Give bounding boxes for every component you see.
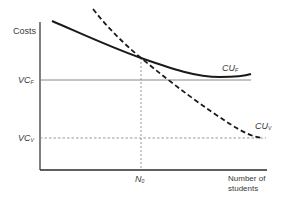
x-axis-label-line2: students bbox=[228, 184, 265, 194]
diagram-canvas bbox=[0, 0, 283, 202]
vc-variable-label: VCV bbox=[18, 133, 34, 145]
cu-variable-label: CUV bbox=[255, 121, 271, 133]
y-axis-label: Costs bbox=[13, 26, 36, 36]
vc-fixed-label: VCF bbox=[18, 75, 34, 87]
cu-fixed-label: CUF bbox=[222, 63, 238, 75]
x-axis-label-line1: Number of bbox=[228, 174, 265, 184]
x-axis-label: Number of students bbox=[228, 174, 265, 194]
n0-label: N0 bbox=[135, 174, 144, 186]
cost-per-student-diagram: Costs VCF VCV CUF CUV N0 Number of stude… bbox=[0, 0, 283, 202]
